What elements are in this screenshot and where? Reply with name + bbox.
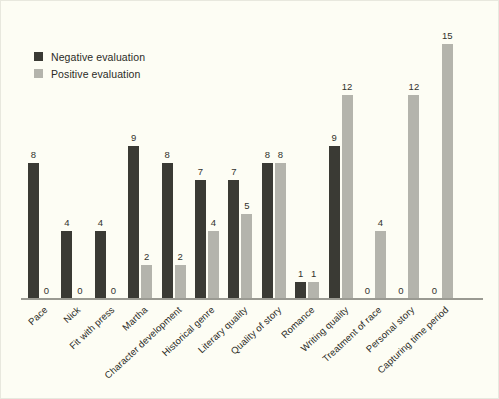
bar-value-label: 4 [64, 217, 69, 228]
bar-value-label: 12 [409, 81, 420, 92]
bar-negative: 0 [395, 11, 406, 299]
bar-fill [342, 95, 353, 299]
x-tick-label: Treatment of race [320, 304, 383, 364]
x-tick-label: Martha [120, 304, 150, 333]
bar-value-label: 4 [98, 217, 103, 228]
bar-fill [61, 231, 72, 299]
bar-value-label: 15 [442, 30, 453, 41]
bar-value-label: 7 [198, 166, 203, 177]
bar-negative: 4 [95, 11, 106, 299]
bar-fill [95, 231, 106, 299]
bar-group: 82 [162, 11, 186, 299]
bar-negative: 8 [28, 11, 39, 299]
bar-negative: 0 [362, 11, 373, 299]
bar-value-label: 2 [177, 251, 182, 262]
bar-chart-figure: Negative evaluation Positive evaluation … [0, 0, 499, 399]
bar-group: 11 [295, 11, 319, 299]
bar-value-label: 8 [265, 149, 270, 160]
bar-value-label: 4 [378, 217, 383, 228]
x-tick-label: Character development [102, 304, 183, 381]
x-tick-label: Fit with press [67, 304, 116, 351]
bar-fill [408, 95, 419, 299]
bar-fill [275, 163, 286, 299]
bar-positive: 8 [275, 11, 286, 299]
bar-value-label: 9 [131, 132, 136, 143]
bar-value-label: 0 [77, 285, 82, 296]
bar-positive: 2 [141, 11, 152, 299]
bar-fill [228, 180, 239, 299]
bar-negative: 8 [162, 11, 173, 299]
bar-negative: 0 [429, 11, 440, 299]
bar-group: 912 [329, 11, 353, 299]
bar-fill [141, 265, 152, 299]
bar-value-label: 0 [365, 285, 370, 296]
bar-value-label: 4 [211, 217, 216, 228]
bar-fill [208, 231, 219, 299]
x-tick-label: Historical genre [160, 304, 217, 358]
bar-positive: 0 [41, 11, 52, 299]
bar-negative: 9 [128, 11, 139, 299]
x-tick-label: Nick [62, 304, 83, 325]
bar-group: 40 [61, 11, 85, 299]
bar-fill [28, 163, 39, 299]
bar-negative: 8 [262, 11, 273, 299]
x-tick-label: Romance [279, 304, 317, 340]
bar-negative: 7 [195, 11, 206, 299]
bar-value-label: 0 [432, 285, 437, 296]
bar-group: 74 [195, 11, 219, 299]
x-tick-label: Capturing time period [375, 304, 450, 375]
bar-fill [329, 146, 340, 299]
bar-positive: 0 [108, 11, 119, 299]
bar-fill [375, 231, 386, 299]
bar-positive: 1 [308, 11, 319, 299]
bar-fill [295, 282, 306, 299]
bar-group: 75 [228, 11, 252, 299]
bar-fill [308, 282, 319, 299]
bar-fill [175, 265, 186, 299]
bar-positive: 12 [408, 11, 419, 299]
bar-group: 015 [429, 11, 453, 299]
bar-value-label: 0 [398, 285, 403, 296]
x-tick-label: Pace [26, 304, 50, 327]
bar-positive: 12 [342, 11, 353, 299]
bar-fill [262, 163, 273, 299]
bar-value-label: 1 [311, 268, 316, 279]
bar-value-label: 0 [111, 285, 116, 296]
bar-value-label: 8 [31, 149, 36, 160]
bar-positive: 15 [442, 11, 453, 299]
bar-positive: 4 [208, 11, 219, 299]
bar-value-label: 1 [298, 268, 303, 279]
bar-fill [195, 180, 206, 299]
bar-group: 92 [128, 11, 152, 299]
bar-value-label: 8 [164, 149, 169, 160]
x-tick-label: Personal story [364, 304, 417, 354]
bar-value-label: 5 [244, 200, 249, 211]
bar-fill [241, 214, 252, 299]
bar-group: 80 [28, 11, 52, 299]
x-axis-line [21, 298, 483, 300]
bar-value-label: 8 [278, 149, 283, 160]
x-tick-label: Literary quality [196, 304, 250, 355]
bar-group: 88 [262, 11, 286, 299]
bar-value-label: 0 [44, 285, 49, 296]
bar-negative: 1 [295, 11, 306, 299]
bar-positive: 0 [74, 11, 85, 299]
bar-positive: 4 [375, 11, 386, 299]
bar-positive: 5 [241, 11, 252, 299]
bar-group: 04 [362, 11, 386, 299]
bar-fill [442, 44, 453, 299]
bar-group: 012 [395, 11, 419, 299]
bar-negative: 9 [329, 11, 340, 299]
bar-value-label: 2 [144, 251, 149, 262]
bar-value-label: 12 [342, 81, 353, 92]
bar-positive: 2 [175, 11, 186, 299]
x-tick-label: Quality of story [228, 304, 283, 356]
bar-fill [128, 146, 139, 299]
bar-negative: 4 [61, 11, 72, 299]
bar-fill [162, 163, 173, 299]
plot-area: 80404092827475881191204012015 [21, 11, 483, 299]
bar-group: 40 [95, 11, 119, 299]
bar-negative: 7 [228, 11, 239, 299]
bar-value-label: 7 [231, 166, 236, 177]
x-tick-label: Writing quality [298, 304, 350, 354]
